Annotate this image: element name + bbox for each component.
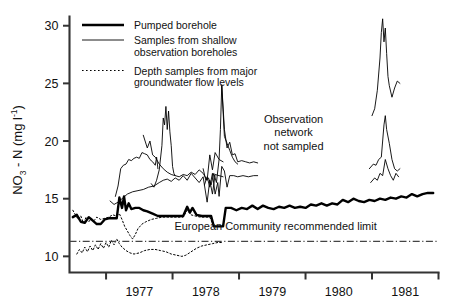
- legend-entry: Samples from shallowobservation borehole…: [82, 34, 237, 58]
- nitrate-timeseries-chart: 101520253019771978197919801981 Pumped bo…: [0, 0, 449, 304]
- legend-label: groundwater flow levels: [134, 76, 244, 88]
- series-line: [222, 85, 258, 163]
- legend-label: Samples from shallow: [134, 34, 237, 46]
- annotation-line: Observation: [264, 113, 323, 125]
- y-axis-title: NO3 - N (mg l-1): [9, 105, 28, 195]
- chart-annotations: Observationnetworknot sampledEuropean Co…: [174, 113, 376, 233]
- series-line: [372, 19, 400, 116]
- x-axis-tick-label: 1977: [125, 285, 153, 299]
- axes: 101520253019771978197919801981: [45, 17, 439, 299]
- x-axis-tick-label: 1978: [192, 285, 220, 299]
- y-axis-tick-label: 10: [45, 250, 59, 264]
- series-line: [115, 153, 158, 197]
- chart-svg: 101520253019771978197919801981 Pumped bo…: [0, 0, 449, 304]
- legend-entry: Pumped borehole: [82, 19, 217, 31]
- series-line: [143, 135, 223, 180]
- x-axis-tick-label: 1981: [391, 285, 419, 299]
- annotation-line: European Community recommended limit: [174, 220, 376, 232]
- axis-spine: [70, 17, 439, 273]
- annotation-line: not sampled: [264, 140, 324, 152]
- x-axis-tick-label: 1980: [325, 285, 353, 299]
- svg-text:NO3 - N (mg l-1): NO3 - N (mg l-1): [9, 105, 28, 195]
- axis-labels: NO3 - N (mg l-1): [9, 105, 28, 195]
- annotation-line: network: [274, 126, 313, 138]
- observation-network-not-sampled: Observationnetworknot sampled: [264, 113, 324, 152]
- y-axis-tick-label: 15: [45, 192, 59, 206]
- x-axis-tick-label: 1979: [258, 285, 286, 299]
- legend-label: Depth samples from major: [134, 65, 258, 77]
- y-axis-tick-label: 25: [45, 77, 59, 91]
- y-axis-tick-label: 20: [45, 135, 59, 149]
- legend-label: observation boreholes: [134, 46, 237, 58]
- legend-label: Pumped borehole: [134, 19, 217, 31]
- european-community-limit-label: European Community recommended limit: [174, 220, 376, 232]
- legend-entry: Depth samples from majorgroundwater flow…: [82, 65, 258, 89]
- chart-legend: Pumped boreholeSamples from shallowobser…: [82, 19, 258, 88]
- series-line: [371, 159, 399, 182]
- y-axis-tick-label: 30: [45, 19, 59, 33]
